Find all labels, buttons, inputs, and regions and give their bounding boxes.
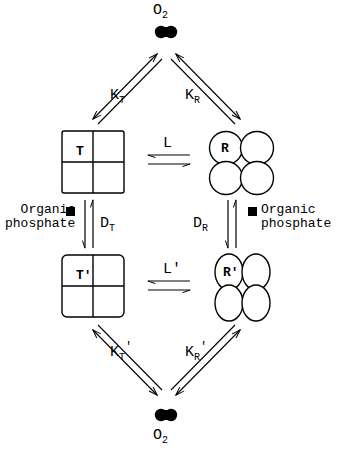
oxygen-bottom-label: O2 bbox=[153, 427, 168, 446]
arrow-kt bbox=[93, 54, 162, 124]
state-shape-T bbox=[62, 131, 124, 193]
arrow-equilibrium-DR bbox=[228, 200, 236, 248]
square-marker-right-icon bbox=[248, 207, 257, 216]
constant-dt-label: DT bbox=[100, 215, 115, 234]
arrow-equilibrium-Lprime bbox=[148, 281, 190, 290]
oxygen-top-label: O2 bbox=[153, 2, 168, 21]
constant-kt-label: KT bbox=[110, 87, 125, 106]
constant-kt-prime-label: KT' bbox=[110, 340, 132, 363]
constant-dr-label: DR bbox=[193, 215, 208, 234]
state-label-R: R bbox=[221, 141, 229, 156]
oxygen-dumbbell-bottom-icon bbox=[155, 409, 177, 421]
arrow-equilibrium-L bbox=[148, 155, 190, 164]
organic-phosphate-right-label: Organic phosphate bbox=[261, 203, 331, 231]
arrow-kr bbox=[171, 54, 240, 124]
constant-Lprime-label: L' bbox=[163, 261, 181, 278]
oxygen-dumbbell-top-icon bbox=[155, 26, 177, 38]
state-shape-R bbox=[210, 132, 274, 195]
constant-kr-prime-label: KR' bbox=[185, 340, 207, 363]
state-label-Rprime: R' bbox=[223, 265, 239, 280]
arrow-equilibrium-DT bbox=[85, 200, 93, 248]
state-shape-Tprime bbox=[62, 255, 124, 317]
organic-phosphate-left-label: Organic phosphate bbox=[5, 203, 75, 231]
constant-kr-label: KR bbox=[185, 87, 200, 106]
constant-L-label: L bbox=[163, 135, 172, 152]
state-label-Tprime: T' bbox=[76, 268, 92, 283]
state-label-T: T bbox=[76, 144, 84, 159]
